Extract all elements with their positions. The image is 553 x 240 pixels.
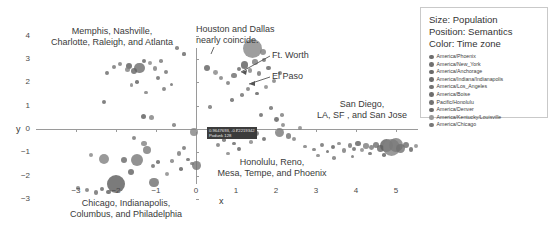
y-tick--3: −3 — [14, 194, 30, 203]
scatter-point[interactable] — [237, 147, 241, 151]
scatter-point[interactable] — [331, 145, 335, 149]
scatter-point[interactable] — [266, 66, 271, 71]
scatter-point[interactable] — [182, 146, 186, 150]
scatter-point[interactable] — [232, 142, 235, 145]
scatter-point[interactable] — [262, 58, 266, 62]
scatter-point[interactable] — [131, 154, 143, 166]
legend-item[interactable]: America/Indiana/Indianapolis — [429, 76, 503, 84]
scatter-point[interactable] — [274, 117, 279, 122]
scatter-point[interactable] — [153, 66, 158, 71]
scatter-point[interactable] — [177, 151, 181, 155]
scatter-point[interactable] — [99, 154, 109, 164]
scatter-point[interactable] — [260, 49, 266, 55]
scatter-point[interactable] — [303, 145, 307, 149]
scatter-point[interactable] — [128, 169, 134, 175]
scatter-point[interactable] — [102, 100, 106, 104]
scatter-point[interactable] — [403, 142, 409, 148]
annotation-houston: Houston and Dallas nearly coincide. — [196, 24, 275, 46]
legend-item[interactable]: America/Anchorage — [429, 68, 503, 76]
scatter-point[interactable] — [156, 160, 160, 164]
scatter-point[interactable] — [312, 148, 315, 151]
scatter-point[interactable] — [248, 68, 253, 73]
scatter-point[interactable] — [118, 62, 122, 66]
scatter-point[interactable] — [132, 136, 136, 140]
scatter-point[interactable] — [141, 114, 146, 119]
scatter-point[interactable] — [135, 80, 139, 84]
legend-item[interactable]: America/New_York — [429, 61, 503, 69]
scatter-point[interactable] — [121, 157, 128, 164]
legend-item[interactable]: Pacific/Honolulu — [429, 99, 503, 107]
scatter-point[interactable] — [131, 68, 137, 74]
scatter-point[interactable] — [280, 113, 284, 117]
scatter-point[interactable] — [230, 98, 233, 101]
legend-item[interactable]: America/Phoenix — [429, 53, 503, 61]
scatter-point[interactable] — [226, 152, 229, 155]
scatter-point[interactable] — [414, 144, 418, 148]
scatter-point[interactable] — [159, 59, 163, 63]
y-tick-mark — [196, 152, 199, 153]
scatter-point[interactable] — [352, 147, 356, 151]
scatter-point[interactable] — [208, 105, 211, 108]
scatter-point[interactable] — [409, 147, 413, 151]
scatter-point[interactable] — [326, 150, 329, 153]
scatter-point[interactable] — [257, 71, 261, 75]
scatter-point[interactable] — [320, 143, 324, 147]
scatter-point[interactable] — [246, 87, 250, 91]
scatter-point[interactable] — [149, 115, 154, 120]
scatter-point[interactable] — [213, 70, 218, 75]
scatter-point[interactable] — [281, 123, 285, 127]
scatter-point[interactable] — [162, 87, 166, 91]
scatter-point[interactable] — [182, 52, 185, 55]
scatter-point[interactable] — [216, 143, 220, 147]
scatter-point[interactable] — [148, 61, 152, 65]
legend-item[interactable]: America/Chicago — [429, 121, 503, 129]
scatter-point[interactable] — [125, 67, 130, 72]
scatter-point[interactable] — [240, 93, 244, 97]
legend-item[interactable]: America/Los_Angeles — [429, 83, 503, 91]
scatter-point[interactable] — [259, 113, 263, 117]
scatter-point[interactable] — [165, 172, 169, 176]
scatter-point[interactable] — [219, 76, 223, 80]
scatter-point[interactable] — [351, 155, 354, 158]
scatter-point[interactable] — [164, 70, 168, 74]
scatter-point[interactable] — [105, 71, 109, 75]
scatter-point[interactable] — [382, 153, 386, 157]
scatter-point[interactable] — [337, 142, 341, 146]
scatter-point[interactable] — [130, 83, 133, 86]
scatter-point[interactable] — [262, 137, 266, 141]
scatter-point[interactable] — [89, 153, 93, 157]
scatter-point[interactable] — [355, 141, 360, 146]
scatter-point[interactable] — [286, 133, 291, 138]
scatter-point[interactable] — [172, 123, 176, 127]
scatter-point[interactable] — [142, 59, 146, 63]
scatter-point[interactable] — [298, 126, 302, 130]
scatter-point[interactable] — [368, 152, 372, 156]
legend-item[interactable]: America/Kentucky/Louisville — [429, 114, 503, 122]
scatter-point[interactable] — [292, 137, 296, 141]
legend-item[interactable]: America/Denver — [429, 106, 503, 114]
scatter-point[interactable] — [204, 65, 210, 71]
scatter-point[interactable] — [186, 158, 189, 161]
legend-item[interactable]: America/Boise — [429, 91, 503, 99]
scatter-point[interactable] — [264, 85, 268, 89]
scatter-point[interactable] — [156, 76, 160, 80]
scatter-point[interactable] — [241, 61, 248, 68]
scatter-point[interactable] — [179, 167, 183, 171]
scatter-point[interactable] — [363, 143, 369, 149]
scatter-point[interactable] — [342, 148, 346, 152]
scatter-point[interactable] — [255, 92, 259, 96]
scatter-point[interactable] — [94, 190, 98, 194]
scatter-point[interactable] — [226, 81, 230, 85]
legend-color-swatch-icon — [429, 92, 434, 97]
scatter-point[interactable] — [144, 91, 147, 94]
scatter-point[interactable] — [249, 140, 253, 144]
scatter-point[interactable] — [143, 146, 151, 154]
scatter-point[interactable] — [151, 164, 155, 168]
scatter-point[interactable] — [231, 73, 236, 78]
scatter-point[interactable] — [170, 83, 173, 86]
scatter-point[interactable] — [269, 106, 273, 110]
y-tick-mark — [196, 106, 199, 107]
scatter-point[interactable] — [112, 65, 116, 69]
scatter-point[interactable] — [252, 59, 258, 65]
scatter-point[interactable] — [170, 159, 173, 162]
